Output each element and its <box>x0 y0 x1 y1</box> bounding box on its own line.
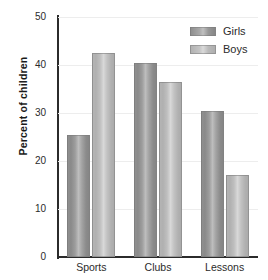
bar-clubs-girls[interactable] <box>134 63 157 257</box>
bar-lessons-girls[interactable] <box>201 111 224 257</box>
gridline <box>58 65 258 66</box>
x-tick-label-sports: Sports <box>58 261 125 273</box>
y-tick-label: 50 <box>0 12 46 22</box>
bar-sports-boys[interactable] <box>92 53 115 257</box>
gridline <box>58 113 258 114</box>
legend-item-girls[interactable]: Girls <box>190 24 247 38</box>
boys-swatch-icon <box>190 45 216 54</box>
bar-lessons-boys[interactable] <box>226 175 249 257</box>
y-tick-label: 10 <box>0 204 46 214</box>
bar-chart: Percent of children 01020304050 SportsCl… <box>0 0 268 280</box>
bar-sports-girls[interactable] <box>67 135 90 257</box>
x-tick-label-clubs: Clubs <box>125 261 192 273</box>
legend-label-girls: Girls <box>223 25 246 37</box>
y-axis-tick-labels: 01020304050 <box>0 0 58 240</box>
legend-item-boys[interactable]: Boys <box>190 42 247 56</box>
girls-swatch-icon <box>190 27 216 36</box>
y-tick-label: 40 <box>0 60 46 70</box>
legend: Girls Boys <box>190 24 247 60</box>
y-tick-label: 30 <box>0 108 46 118</box>
y-tick-label: 0 <box>0 252 46 262</box>
gridline <box>58 17 258 18</box>
y-tick-label: 20 <box>0 156 46 166</box>
legend-label-boys: Boys <box>223 43 247 55</box>
x-tick-label-lessons: Lessons <box>191 261 258 273</box>
bar-clubs-boys[interactable] <box>159 82 182 257</box>
